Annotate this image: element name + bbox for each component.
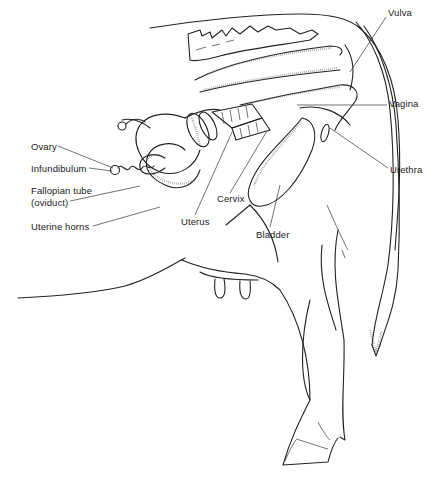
- label-bladder: Bladder: [256, 229, 289, 240]
- label-vagina: Vagina: [389, 98, 418, 109]
- label-urethra: Urethra: [390, 164, 422, 175]
- body-outline: [18, 14, 400, 465]
- label-infundibulum: Infundibulum: [31, 163, 87, 174]
- cow-reproductive-anatomy-illustration: [0, 0, 438, 481]
- label-fallopian-tube: Fallopian tube: [31, 185, 92, 196]
- spine-vertebrae: [188, 26, 353, 92]
- label-cervix: Cervix: [217, 193, 245, 204]
- label-ovary: Ovary: [31, 141, 57, 152]
- label-vulva: Vulva: [388, 7, 412, 18]
- label-oviduct: (oviduct): [31, 197, 68, 208]
- label-uterus: Uterus: [181, 216, 210, 227]
- label-uterine-horns: Uterine horns: [31, 221, 89, 232]
- reproductive-tract: [111, 85, 358, 206]
